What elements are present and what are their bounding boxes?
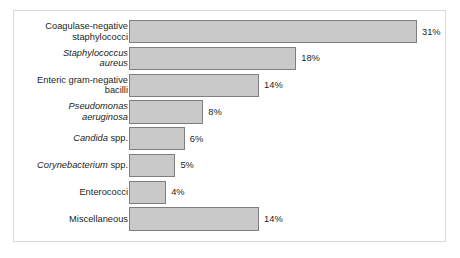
category-label-part: Staphylococcus <box>63 48 128 58</box>
bar-value-label: 18% <box>296 53 320 63</box>
bar <box>129 47 296 70</box>
bar <box>129 207 259 230</box>
category-label-part: aeruginosa <box>82 112 128 122</box>
category-label-part: Corynebacterium <box>37 160 108 170</box>
bar-value-label: 5% <box>175 160 193 170</box>
plot-area: Coagulase-negativestaphylococci31%Staphy… <box>14 11 447 243</box>
bar <box>129 100 203 123</box>
category-label-part: Coagulase-negative <box>45 21 128 31</box>
bar-row: Enteric gram-negativebacilli14% <box>14 74 447 97</box>
category-label: Pseudomonasaeruginosa <box>0 101 128 122</box>
category-label: Candida spp. <box>0 133 128 144</box>
bar <box>129 181 166 204</box>
category-label: Coagulase-negativestaphylococci <box>0 21 128 42</box>
bar-row: Staphylococcusaureus18% <box>14 47 447 70</box>
category-label: Corynebacterium spp. <box>0 160 128 171</box>
category-label-part: bacilli <box>105 85 128 95</box>
bar-value-label: 4% <box>166 187 184 197</box>
bar-row: Corynebacterium spp.5% <box>14 154 447 177</box>
category-label-part: spp. <box>108 160 128 170</box>
bar-value-label: 6% <box>185 134 203 144</box>
figure: Coagulase-negativestaphylococci31%Staphy… <box>0 0 460 258</box>
category-label: Miscellaneous <box>0 214 128 225</box>
bar-row: Enterococci4% <box>14 181 447 204</box>
bar <box>129 74 259 97</box>
category-label-part: spp. <box>108 133 128 143</box>
bar-value-label: 14% <box>259 80 283 90</box>
category-label: Staphylococcusaureus <box>0 48 128 69</box>
category-label-part: Enteric gram-negative <box>37 75 128 85</box>
bar <box>129 20 417 43</box>
bar-value-label: 14% <box>259 214 283 224</box>
category-label-part: Miscellaneous <box>69 214 128 224</box>
bar-row: Pseudomonasaeruginosa8% <box>14 100 447 123</box>
category-label: Enteric gram-negativebacilli <box>0 75 128 96</box>
bar <box>129 154 175 177</box>
bar-value-label: 31% <box>417 27 441 37</box>
category-label-part: aureus <box>100 58 128 68</box>
chart-frame: Coagulase-negativestaphylococci31%Staphy… <box>13 10 446 242</box>
bar-value-label: 8% <box>203 107 221 117</box>
category-label-part: Pseudomonas <box>69 101 128 111</box>
bar-row: Miscellaneous14% <box>14 207 447 230</box>
category-label: Enterococci <box>0 187 128 198</box>
bar-row: Candida spp.6% <box>14 127 447 150</box>
category-label-part: staphylococci <box>72 32 128 42</box>
category-label-part: Candida <box>73 133 108 143</box>
category-label-part: Enterococci <box>79 187 128 197</box>
bar-row: Coagulase-negativestaphylococci31% <box>14 20 447 43</box>
bar <box>129 127 185 150</box>
